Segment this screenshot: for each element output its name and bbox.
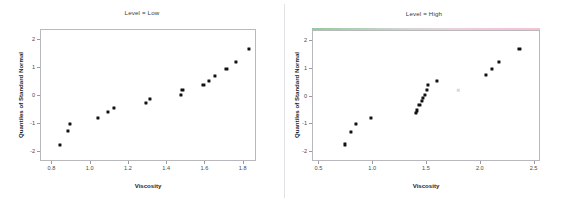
data-point [498,60,501,63]
data-point [427,84,430,87]
x-tick-label: 1.0 [368,165,376,171]
data-point [425,88,428,91]
y-tick-mark [37,151,40,152]
data-point [421,96,424,99]
data-point [344,143,347,146]
data-point [68,122,71,125]
data-point [416,109,419,112]
scatter-layer-high [313,31,539,160]
y-tick-mark [37,95,40,96]
data-point [248,47,251,50]
x-tick-label: 0.5 [315,165,323,171]
y-tick-mark [37,123,40,124]
y-tick-mark [309,151,312,152]
x-tick-mark [166,161,167,164]
data-point-faint [457,89,459,91]
panel-level-high: Level = High 0.51.01.52.02.5-2-1012 Visc… [284,0,564,202]
y-tick-mark [37,67,40,68]
x-tick-mark [204,161,205,164]
x-tick-label: 1.2 [124,165,132,171]
facet-title-high: Level = High [284,10,564,17]
data-point [112,106,115,109]
y-axis-title-low: Quantiles of Standard Normal [17,52,24,138]
y-tick-label: 2 [22,36,35,42]
data-point [435,79,438,82]
qq-plot-figure: Level = Low 0.81.01.21.41.61.8-2-1012 Vi… [0,0,564,202]
data-point [66,130,69,133]
data-point [370,117,373,120]
data-point [106,110,109,113]
x-tick-mark [426,161,427,164]
data-point [225,68,228,71]
data-point [179,93,182,96]
y-tick-mark [309,68,312,69]
data-point [97,116,100,119]
data-point [349,130,352,133]
data-point [354,123,357,126]
data-point [234,60,237,63]
x-tick-label: 2.0 [476,165,484,171]
data-point [420,99,423,102]
x-tick-mark [243,161,244,164]
x-tick-mark [128,161,129,164]
x-axis-title-high: Viscosity [413,182,440,189]
data-point [145,101,148,104]
data-point [208,79,211,82]
y-tick-mark [309,123,312,124]
data-point [202,84,205,87]
data-point [485,74,488,77]
x-tick-label: 1.5 [422,165,430,171]
x-tick-mark [90,161,91,164]
data-point [148,97,151,100]
y-tick-mark [37,39,40,40]
data-point [418,103,421,106]
data-point [423,94,426,97]
y-tick-label: 2 [294,37,307,43]
x-tick-mark [534,161,535,164]
data-point [213,74,216,77]
plot-area-high [312,30,540,161]
x-tick-label: 1.8 [239,165,247,171]
data-point [490,68,493,71]
plot-area-low [40,29,256,161]
panel-level-low: Level = Low 0.81.01.21.41.61.8-2-1012 Vi… [0,0,284,202]
x-tick-mark [372,161,373,164]
scatter-layer-low [41,30,255,160]
x-tick-label: 1.4 [162,165,170,171]
x-tick-mark [480,161,481,164]
x-axis-title-low: Viscosity [135,182,162,189]
x-tick-mark [51,161,52,164]
y-axis-title-high: Quantiles of Standard Normal [293,52,300,138]
data-point [181,89,184,92]
y-tick-label: -2 [22,148,35,154]
x-tick-label: 2.5 [530,165,538,171]
y-tick-label: -2 [294,148,307,154]
x-tick-label: 0.8 [48,165,56,171]
data-point [59,143,62,146]
x-tick-mark [318,161,319,164]
x-tick-label: 1.0 [86,165,94,171]
x-tick-label: 1.6 [200,165,208,171]
y-tick-mark [309,40,312,41]
data-point [518,47,521,50]
facet-title-low: Level = Low [0,9,284,16]
y-tick-mark [309,96,312,97]
